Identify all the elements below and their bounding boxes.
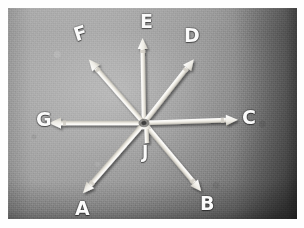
arrow-label-G: G: [36, 110, 51, 129]
arrow-C: [144, 114, 238, 128]
photo-frame: F E D G C J A B: [0, 0, 304, 228]
arrow-label-D: D: [184, 26, 199, 45]
arrow-A: [79, 120, 148, 197]
photograph: F E D G C J A B: [8, 8, 297, 219]
arrow-E: [138, 38, 149, 123]
arrow-label-A: A: [75, 199, 89, 218]
center-point: [141, 121, 146, 125]
arrow-label-E: E: [140, 12, 152, 31]
arrow-D: [140, 56, 198, 126]
arrow-label-B: B: [200, 194, 214, 213]
arrow-B: [140, 120, 205, 195]
arrow-label-C: C: [242, 108, 255, 127]
arrow-F: [85, 56, 148, 126]
arrow-label-J: J: [142, 144, 148, 161]
arrow-G: [49, 118, 144, 129]
